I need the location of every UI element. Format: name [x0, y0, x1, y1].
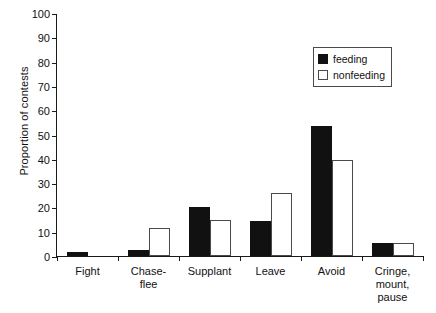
bar-feeding [189, 207, 210, 256]
bar-pair [57, 14, 118, 256]
y-axis-tick-label: 100 [20, 8, 50, 20]
y-axis-tick-label: 60 [20, 105, 50, 117]
legend-item: nonfeeding [318, 67, 387, 83]
y-axis-tick-label: 90 [20, 32, 50, 44]
bar-group: Supplant [179, 14, 240, 256]
x-axis-tick [179, 256, 180, 261]
x-axis-label-line: Leave [256, 265, 286, 278]
y-axis-tick-label: 80 [20, 57, 50, 69]
x-axis-label-line: Cringe, [375, 265, 410, 278]
bar-feeding [128, 250, 149, 256]
legend-label: nonfeeding [333, 69, 385, 81]
x-axis-tick [57, 256, 58, 261]
x-axis-label: Leave [256, 265, 286, 278]
x-axis-label-line: pause [375, 291, 410, 304]
x-axis-label: Fight [75, 265, 99, 278]
y-axis-tick-label: 10 [20, 227, 50, 239]
x-axis-label-line: flee [131, 278, 166, 291]
x-axis-label: Cringe,mount,pause [375, 265, 410, 304]
bar-group: Fight [57, 14, 118, 256]
legend-swatch-nonfeeding [318, 70, 328, 80]
x-axis-tick [362, 256, 363, 261]
bar-nonfeeding [149, 228, 170, 256]
bar-feeding [311, 126, 332, 256]
y-axis-tick-label: 20 [20, 202, 50, 214]
legend-label: feeding [333, 53, 367, 65]
x-axis-label: Chase-flee [131, 265, 166, 291]
legend: feedingnonfeeding [313, 47, 392, 87]
x-axis-label-line: mount, [375, 278, 410, 291]
y-axis-tick-label: 70 [20, 81, 50, 93]
x-axis-tick [423, 256, 424, 261]
y-axis-title: Proportion of contests [18, 21, 30, 221]
x-axis-tick [118, 256, 119, 261]
x-axis-label: Supplant [188, 265, 231, 278]
x-axis-tick [240, 256, 241, 261]
bar-feeding [372, 243, 393, 256]
bar-pair [240, 14, 301, 256]
y-axis-tick-label: 40 [20, 154, 50, 166]
bar-group: Leave [240, 14, 301, 256]
x-axis-label-line: Chase- [131, 265, 166, 278]
bar-pair [179, 14, 240, 256]
bar-feeding [67, 252, 88, 256]
y-axis-tick-label: 50 [20, 130, 50, 142]
legend-item: feeding [318, 51, 387, 67]
legend-swatch-feeding [318, 54, 328, 64]
bar-group: Chase-flee [118, 14, 179, 256]
y-axis-tick-label: 0 [20, 251, 50, 263]
bar-nonfeeding [393, 243, 414, 256]
bar-nonfeeding [271, 193, 292, 256]
bar-chart: Proportion of contests 01020304050607080… [0, 0, 436, 313]
bar-feeding [250, 221, 271, 256]
x-axis-label-line: Fight [75, 265, 99, 278]
x-axis-label-line: Avoid [318, 265, 345, 278]
bar-nonfeeding [210, 220, 231, 256]
x-axis-label-line: Supplant [188, 265, 231, 278]
bar-nonfeeding [332, 160, 353, 256]
bar-pair [118, 14, 179, 256]
y-axis-tick-label: 30 [20, 178, 50, 190]
x-axis-tick [301, 256, 302, 261]
x-axis-label: Avoid [318, 265, 345, 278]
